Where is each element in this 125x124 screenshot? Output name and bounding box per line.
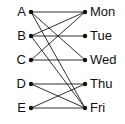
edge-b-fri — [31, 36, 85, 108]
edge-b-mon — [31, 12, 85, 36]
node-dot-c[interactable] — [29, 58, 33, 62]
bipartite-graph-diagram: ABCDEMonTueWedThuFri — [0, 0, 125, 124]
node-dot-tue[interactable] — [83, 34, 87, 38]
node-label-tue: Tue — [90, 28, 112, 43]
node-dot-fri[interactable] — [83, 106, 87, 110]
graph-canvas: ABCDEMonTueWedThuFri — [0, 0, 125, 124]
node-dot-d[interactable] — [29, 82, 33, 86]
node-label-a: A — [17, 4, 26, 19]
node-dot-mon[interactable] — [83, 10, 87, 14]
node-label-fri: Fri — [90, 100, 105, 115]
edges-group — [31, 12, 85, 108]
node-label-d: D — [17, 76, 26, 91]
node-dot-thu[interactable] — [83, 82, 87, 86]
node-dot-a[interactable] — [29, 10, 33, 14]
node-label-e: E — [17, 100, 26, 115]
node-dot-wed[interactable] — [83, 58, 87, 62]
node-label-thu: Thu — [90, 76, 112, 91]
node-dot-b[interactable] — [29, 34, 33, 38]
node-label-mon: Mon — [90, 4, 115, 19]
node-label-b: B — [17, 28, 26, 43]
node-label-c: C — [17, 52, 26, 67]
node-dot-e[interactable] — [29, 106, 33, 110]
node-label-wed: Wed — [90, 52, 117, 67]
